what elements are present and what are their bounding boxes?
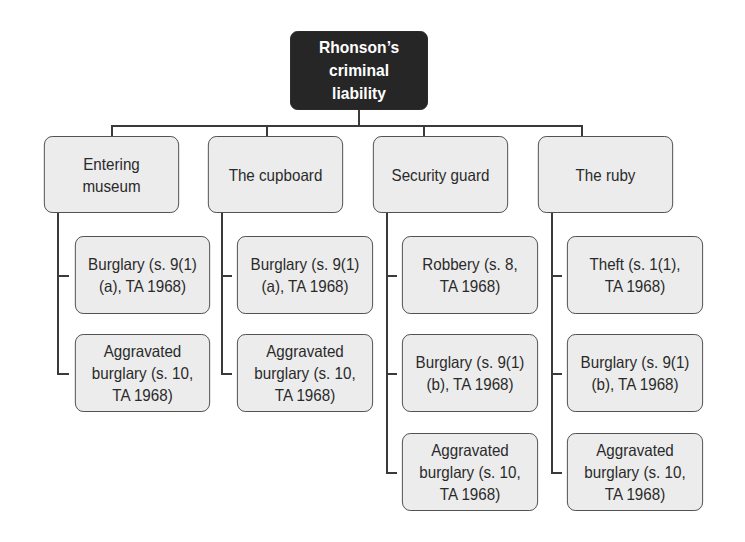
offence-label: Burglary (s. 9(1)(b), TA 1968) <box>407 351 532 395</box>
branch <box>221 373 232 375</box>
offence-node: Theft (s. 1(1), TA 1968) <box>567 236 703 314</box>
offence-label: Aggravated burglary (s. 10, TA 1968) <box>242 340 367 406</box>
offence-label: Burglary (s. 9(1)(a), TA 1968) <box>80 253 205 297</box>
offence-label: Aggravated burglary (s. 10, TA 1968) <box>80 340 205 406</box>
offence-label: Aggravated burglary (s. 10, TA 1968) <box>407 439 532 505</box>
root-label: Rhonson’s criminal liability <box>305 36 414 105</box>
offence-node: Aggravated burglary (s. 10, TA 1968) <box>75 334 210 412</box>
level1-bus <box>111 125 582 127</box>
branch <box>551 275 562 277</box>
offence-node: Burglary (s. 9(1)(b), TA 1968) <box>402 334 538 412</box>
offence-label: Burglary (s. 9(1)(b), TA 1968) <box>572 351 697 395</box>
drop-col-2 <box>266 125 268 136</box>
drop-col-1 <box>111 125 113 136</box>
offence-label: Robbery (s. 8, TA 1968) <box>411 253 529 297</box>
category-security-guard: Security guard <box>373 136 508 213</box>
branch <box>386 275 397 277</box>
branch <box>551 472 562 474</box>
branch <box>386 373 397 375</box>
category-label: The ruby <box>572 164 639 186</box>
trunk-col-1 <box>57 213 59 374</box>
drop-col-4 <box>581 125 583 136</box>
drop-col-3 <box>423 125 425 136</box>
offence-label: Burglary (s. 9(1)(a), TA 1968) <box>242 253 367 297</box>
offence-node: Burglary (s. 9(1)(b), TA 1968) <box>567 334 703 412</box>
offence-label: Theft (s. 1(1), TA 1968) <box>576 253 694 297</box>
category-the-cupboard: The cupboard <box>208 136 343 213</box>
category-label: The cupboard <box>225 164 326 186</box>
category-label: Entering museum <box>66 153 156 197</box>
category-the-ruby: The ruby <box>538 136 673 213</box>
offence-node: Robbery (s. 8, TA 1968) <box>402 236 538 314</box>
root-node: Rhonson’s criminal liability <box>290 31 428 110</box>
offence-node: Burglary (s. 9(1)(a), TA 1968) <box>237 236 373 314</box>
offence-node: Aggravated burglary (s. 10, TA 1968) <box>567 433 703 511</box>
category-entering-museum: Entering museum <box>44 136 179 213</box>
branch <box>386 472 397 474</box>
root-connector <box>358 110 360 125</box>
trunk-col-3 <box>386 213 388 473</box>
category-label: Security guard <box>388 164 493 186</box>
branch <box>57 275 69 277</box>
offence-node: Aggravated burglary (s. 10, TA 1968) <box>237 334 373 412</box>
branch <box>221 275 232 277</box>
offence-node: Aggravated burglary (s. 10, TA 1968) <box>402 433 538 511</box>
branch <box>551 373 562 375</box>
branch <box>57 373 69 375</box>
offence-node: Burglary (s. 9(1)(a), TA 1968) <box>75 236 210 314</box>
offence-label: Aggravated burglary (s. 10, TA 1968) <box>572 439 697 505</box>
trunk-col-4 <box>551 213 553 473</box>
trunk-col-2 <box>221 213 223 374</box>
